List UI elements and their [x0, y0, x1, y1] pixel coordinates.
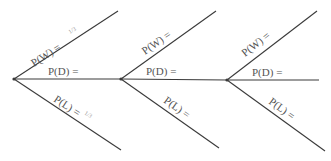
- stage-3: P(W) = P(D) = P(L) =: [225, 11, 325, 151]
- label-p-draw-2: P(D) =: [146, 65, 176, 78]
- label-p-loss-1: P(L) =: [51, 93, 83, 120]
- stage-2: P(W) = P(D) = P(L) =: [119, 11, 227, 148]
- node-2: [119, 77, 122, 80]
- tree-diagram: P(W) = 1/3 P(D) = P(L) = 1/3 P(W) = P(D)…: [0, 0, 331, 161]
- node-1: [12, 77, 15, 80]
- value-p-loss-1: 1/3: [83, 110, 93, 119]
- branch-draw-2: [121, 79, 227, 80]
- stage-1: P(W) = 1/3 P(D) = P(L) = 1/3: [12, 11, 121, 150]
- branch-loss-3: [227, 80, 325, 151]
- label-p-loss-2: P(L) =: [161, 94, 192, 121]
- value-p-win-1: 1/3: [67, 26, 77, 35]
- label-p-draw-1: P(D) =: [48, 65, 78, 78]
- node-3: [225, 78, 228, 81]
- label-p-loss-3: P(L) =: [266, 95, 297, 123]
- label-p-draw-3: P(D) =: [252, 66, 282, 79]
- label-p-win-3: P(W) =: [239, 29, 273, 59]
- branch-loss-2: [121, 79, 219, 148]
- branch-loss-1: [14, 79, 121, 150]
